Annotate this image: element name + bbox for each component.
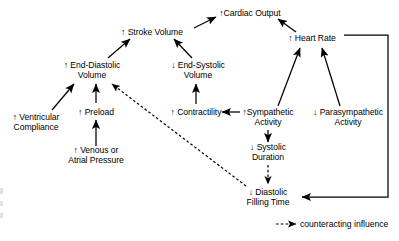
node-cardiac-output: ↑Cardiac Output [219, 8, 280, 18]
cardiac-output-diagram: ↑Cardiac Output ↑ Stroke Volume ↑ Heart … [0, 0, 399, 241]
legend-line-1: influence [354, 219, 388, 229]
node-diastolic-filling-time: ↓ Diastolic Filling Time [247, 187, 290, 207]
scan-artifact [0, 188, 3, 194]
node-end-diastolic-volume-line-0: ↑ End-Diastolic [64, 60, 121, 70]
node-stroke-volume-line-0: ↑ Stroke Volume [121, 27, 183, 37]
scan-artifact [0, 201, 3, 206]
edge-stroke-volume-to-cardiac-output [194, 17, 216, 28]
node-venous-atrial-pressure-line-0: ↑ Venous or [68, 145, 124, 155]
edge-sympathetic-to-heart-rate [278, 48, 300, 106]
node-venous-atrial-pressure-line-1: Atrial Pressure [68, 155, 124, 165]
node-end-systolic-volume-line-0: ↓ End-Systolic [171, 60, 225, 70]
edge-parasympathetic-to-heart-rate [322, 48, 340, 106]
node-contractility: ↑ Contractility [171, 107, 222, 117]
node-stroke-volume: ↑ Stroke Volume [121, 27, 183, 37]
node-parasympathetic-activity-line-1: Activity [313, 117, 383, 127]
node-systolic-duration-line-0: ↓ Systolic [250, 142, 286, 152]
node-venous-atrial-pressure: ↑ Venous or Atrial Pressure [68, 145, 124, 165]
node-contractility-line-0: ↑ Contractility [171, 107, 222, 117]
node-sympathetic-activity: ↑Sympathetic Activity [243, 107, 294, 127]
edge-end-diastolic-to-stroke-volume [108, 39, 130, 58]
node-preload: ↑ Preload [78, 107, 114, 117]
node-preload-line-0: ↑ Preload [78, 107, 114, 117]
node-end-diastolic-volume-line-1: Volume [64, 70, 121, 80]
node-parasympathetic-activity: ↓ Parasympathetic Activity [313, 107, 383, 127]
node-sympathetic-activity-line-0: ↑Sympathetic [243, 107, 294, 117]
edge-heart-rate-to-cardiac-output [278, 19, 296, 32]
legend-counteracting-influence: counteracting influence [300, 219, 388, 229]
node-systolic-duration: ↓ Systolic Duration [250, 142, 286, 162]
node-ventricular-compliance: ↑ Ventricular Compliance [13, 112, 60, 132]
node-diastolic-filling-time-line-1: Filling Time [247, 197, 290, 207]
node-heart-rate: ↑ Heart Rate [288, 33, 336, 43]
node-end-diastolic-volume: ↑ End-Diastolic Volume [64, 60, 121, 80]
node-cardiac-output-line-0: ↑Cardiac Output [219, 8, 280, 18]
node-ventricular-compliance-line-0: ↑ Ventricular [13, 112, 60, 122]
node-end-systolic-volume-line-1: Volume [171, 70, 225, 80]
edge-diastolic-filling-to-end-diastolic-dashed [112, 84, 246, 186]
node-systolic-duration-line-1: Duration [250, 152, 286, 162]
node-end-systolic-volume: ↓ End-Systolic Volume [171, 60, 225, 80]
node-parasympathetic-activity-line-0: ↓ Parasympathetic [313, 107, 383, 117]
node-diastolic-filling-time-line-0: ↓ Diastolic [247, 187, 290, 197]
legend-line-0: counteracting [300, 219, 352, 229]
edge-ventricular-compliance-to-end-diastolic [52, 84, 74, 110]
edge-end-systolic-to-stroke-volume [174, 39, 192, 58]
node-heart-rate-line-0: ↑ Heart Rate [288, 33, 336, 43]
node-sympathetic-activity-line-1: Activity [243, 117, 294, 127]
node-ventricular-compliance-line-1: Compliance [13, 122, 60, 132]
scan-artifact [0, 213, 3, 218]
